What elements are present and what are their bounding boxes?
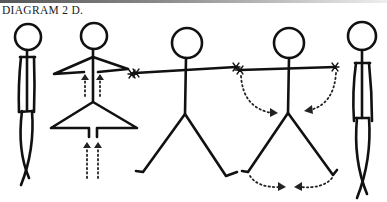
figure-3-legs [136,114,237,176]
inward-leg-arrows [250,176,332,191]
diagram-page: DIAGRAM 2 D. [0,0,387,202]
figure-5-legs [356,118,369,198]
upward-arrows-lower [83,142,102,178]
figure-3 [131,28,240,176]
diagram-canvas [0,0,387,202]
figure-3-head [172,28,202,58]
figure-1-body [19,50,35,112]
figure-4-torso [288,58,289,113]
figure-5-body [353,50,372,121]
figure-1 [15,24,41,185]
figure-5 [348,22,376,198]
figure-1-legs [21,111,33,185]
figure-2 [51,23,137,178]
figure-2-head [81,23,107,49]
figure-4 [235,28,339,191]
figure-5-head [348,22,376,50]
figure-1-head [15,24,41,50]
figure-4-legs [242,113,337,175]
figure-2-right-arm [93,57,128,72]
figure-4-arms [240,67,335,70]
figure-4-head [274,28,304,58]
figure-2-legs [51,102,137,137]
figure-3-torso [185,58,186,114]
figure-2-left-arm [54,57,93,74]
